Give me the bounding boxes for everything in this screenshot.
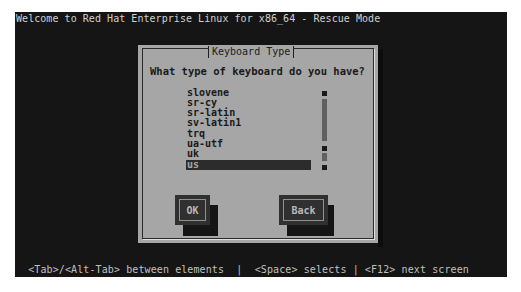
scrollbar-track-lower[interactable] [322,153,327,161]
scroll-up-icon[interactable] [322,91,327,96]
ok-button-label: OK [179,199,206,221]
scroll-down-icon[interactable] [322,165,327,170]
ok-button[interactable]: OK [175,195,210,225]
list-item-selected[interactable]: us [186,160,311,170]
scrollbar-track[interactable] [322,99,327,141]
list-item[interactable]: uk [186,149,311,159]
list-item[interactable]: ua-utf [186,139,311,149]
rescue-mode-screen: Welcome to Red Hat Enterprise Linux for … [15,12,507,277]
list-scrollbar[interactable] [322,88,327,170]
help-status-bar: <Tab>/<Alt-Tab> between elements | <Spac… [16,264,469,275]
scrollbar-thumb[interactable] [322,146,327,151]
list-item[interactable]: sv-latin1 [186,118,311,128]
back-button-label: Back [283,199,324,221]
dialog-title: Keyboard Type [208,46,294,58]
installer-title: Welcome to Red Hat Enterprise Linux for … [16,13,380,24]
keyboard-prompt: What type of keyboard do you have? [150,65,365,77]
keyboard-type-dialog: Keyboard Type What type of keyboard do y… [138,45,378,243]
dialog-shadow [378,49,383,247]
back-button[interactable]: Back [279,195,328,225]
keyboard-listbox[interactable]: slovene sr-cy sr-latin sv-latin1 trq ua-… [186,88,336,172]
